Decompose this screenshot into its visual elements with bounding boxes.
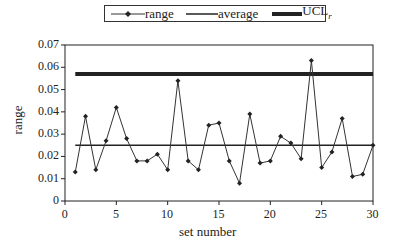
x-tick-label: 0 [62, 207, 68, 222]
y-axis-label: range [10, 100, 26, 140]
range-data-point [247, 112, 252, 117]
range-data-point [268, 158, 273, 163]
legend: range average UCLr [104, 5, 326, 22]
legend-label-average: average [218, 7, 258, 21]
range-data-point [114, 105, 119, 110]
y-tick-label: 0.01 [38, 171, 59, 186]
range-data-point [124, 136, 129, 141]
range-data-point [217, 121, 222, 126]
y-tick-label: 0.06 [38, 59, 59, 74]
range-data-point [227, 158, 232, 163]
legend-label-range: range [145, 7, 174, 21]
x-tick-label: 25 [315, 207, 327, 222]
range-series-markers [73, 58, 376, 186]
legend-label-ucl-main: UCL [302, 3, 328, 18]
y-tick-label: 0.04 [38, 104, 59, 119]
range-data-point [206, 123, 211, 128]
range-data-point [237, 181, 242, 186]
y-tick-label: 0.05 [38, 82, 59, 97]
legend-item-ucl: UCLr [272, 4, 332, 23]
x-tick-label: 10 [161, 207, 173, 222]
range-series-line [75, 61, 373, 184]
y-axis-ticks [61, 45, 65, 201]
y-tick-label: 0 [53, 193, 59, 208]
range-data-point [83, 114, 88, 119]
x-tick-label: 15 [212, 207, 224, 222]
legend-label-ucl: UCLr [302, 4, 332, 23]
range-data-point [340, 116, 345, 121]
x-axis-ticks [65, 201, 373, 205]
range-data-point [165, 167, 170, 172]
x-axis-label: set number [179, 224, 236, 240]
legend-item-average: average [186, 7, 258, 21]
legend-label-ucl-sub: r [328, 11, 332, 21]
x-tick-label: 30 [366, 207, 378, 222]
range-data-point [360, 172, 365, 177]
y-tick-label: 0.03 [38, 126, 59, 141]
x-tick-label: 20 [264, 207, 276, 222]
legend-ucl-swatch [272, 10, 302, 18]
range-data-point [309, 58, 314, 63]
range-data-point [93, 167, 98, 172]
range-data-point [73, 170, 78, 175]
chart-canvas [0, 0, 399, 248]
legend-average-swatch [186, 10, 218, 18]
range-data-point [350, 174, 355, 179]
y-tick-label: 0.07 [38, 37, 59, 52]
legend-range-swatch [111, 10, 145, 18]
legend-item-range: range [111, 7, 174, 21]
range-data-point [371, 143, 376, 148]
range-data-point [145, 158, 150, 163]
x-tick-label: 5 [113, 207, 119, 222]
range-data-point [134, 158, 139, 163]
range-data-point [258, 161, 263, 166]
range-data-point [175, 78, 180, 83]
y-tick-label: 0.02 [38, 148, 59, 163]
range-data-point [104, 138, 109, 143]
